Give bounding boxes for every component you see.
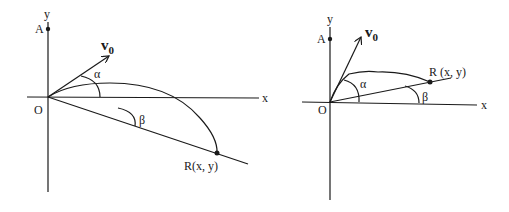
y-axis-label: y (327, 12, 333, 26)
beta-label: β (139, 113, 145, 127)
point-a-dot (46, 27, 50, 31)
beta-label: β (422, 90, 428, 104)
beta-arc (405, 86, 419, 103)
velocity-label: v0 (365, 24, 379, 43)
x-axis-label: x (262, 91, 268, 105)
trajectory (330, 71, 430, 102)
velocity-label: v0 (101, 37, 115, 56)
origin-label: O (34, 103, 43, 117)
landing-point-dot (428, 80, 433, 85)
diagram-right: y x A O v0 α β R (x, y) (302, 12, 487, 200)
landing-point-label: R (x, y) (429, 65, 466, 79)
origin-label: O (318, 103, 327, 117)
x-axis (27, 97, 259, 98)
x-axis-label: x (481, 98, 487, 112)
diagram-left: y x A O v0 α β R(x, y) (27, 7, 268, 192)
alpha-label: α (360, 77, 367, 91)
alpha-label: α (94, 67, 101, 81)
trajectory (48, 83, 217, 153)
landing-point-dot (215, 151, 220, 156)
point-a-label: A (317, 32, 326, 46)
point-a-dot (328, 37, 332, 41)
y-axis-label: y (44, 7, 50, 21)
landing-point-label: R(x, y) (184, 159, 218, 173)
x-axis (302, 102, 477, 105)
point-a-label: A (35, 22, 44, 36)
